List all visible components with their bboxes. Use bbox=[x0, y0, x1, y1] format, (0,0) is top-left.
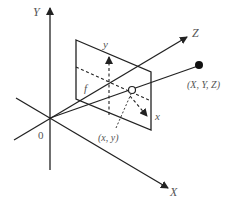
projected-point-label: (x, y) bbox=[98, 132, 119, 144]
image-y-axis-label: y bbox=[102, 38, 108, 50]
world-z-axis-label: Z bbox=[192, 26, 199, 40]
world-x-axis-label: X bbox=[169, 185, 178, 199]
world-point bbox=[195, 61, 203, 69]
image-plane bbox=[76, 40, 151, 130]
camera-projection-diagram: Y Z X 0 y x f (x, y) (X, Y, Z) bbox=[0, 0, 239, 209]
origin-label: 0 bbox=[38, 129, 44, 141]
world-point-label: (X, Y, Z) bbox=[187, 79, 221, 91]
world-z-axis bbox=[14, 37, 187, 140]
world-x-axis bbox=[16, 98, 168, 188]
projected-point-leader bbox=[116, 94, 131, 128]
diagram-svg: Y Z X 0 y x f (x, y) (X, Y, Z) bbox=[0, 0, 239, 209]
world-y-axis-label: Y bbox=[33, 5, 41, 19]
image-x-axis-label: x bbox=[154, 110, 160, 122]
projected-point bbox=[129, 87, 136, 94]
focal-length-label: f bbox=[84, 82, 89, 94]
image-x-axis bbox=[130, 96, 147, 116]
